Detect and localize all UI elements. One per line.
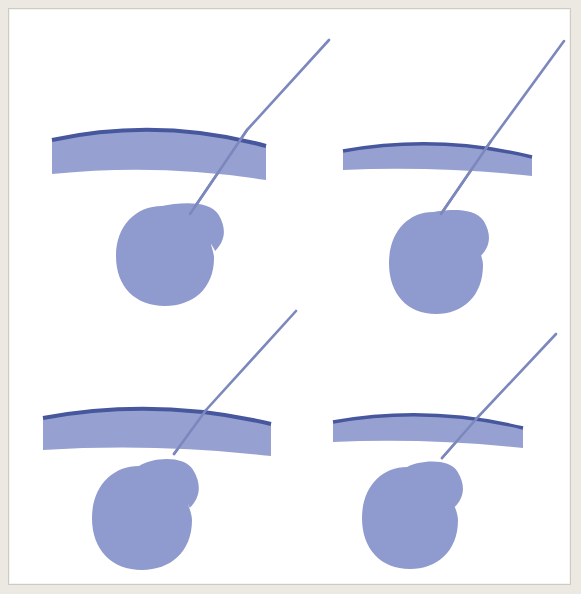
lesion-bottom-left [92,459,199,570]
panel-bottom-left [43,311,296,570]
figure-frame [8,8,571,585]
panel-grid [18,18,579,593]
needle-top-left [190,40,329,214]
figure-root [0,0,581,594]
panel-bottom-right [333,334,556,569]
lesion-top-right [389,210,489,314]
illustration-canvas [18,18,579,593]
transducer-arc-top-right [343,144,532,176]
transducer-arc-bottom-right [333,415,523,448]
panel-top-right [343,41,564,314]
lesion-bottom-right [362,462,463,569]
panel-top-left [52,40,329,306]
lesion-top-left [116,203,224,306]
